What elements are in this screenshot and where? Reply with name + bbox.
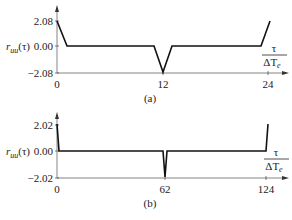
xtick-end-a: 24 bbox=[263, 78, 275, 90]
curve-b bbox=[57, 124, 268, 177]
ylabel-a: ruu(τ) bbox=[6, 40, 30, 55]
y-axis-arrow-icon bbox=[55, 112, 59, 119]
svg-text:ΔTe: ΔTe bbox=[265, 160, 283, 174]
ylabel-b: ruu(τ) bbox=[6, 145, 30, 160]
svg-text:τ: τ bbox=[274, 146, 279, 158]
xtick-0-b: 0 bbox=[54, 183, 60, 195]
curve-a bbox=[57, 21, 270, 72]
figure: 2.08 0.00 −2.08 ruu(τ) 0 12 24 τ ΔTe (a) bbox=[0, 0, 292, 220]
ytick-bot-b: −2.02 bbox=[28, 172, 53, 184]
svg-text:τ: τ bbox=[272, 42, 277, 54]
panel-b: 2.02 0.00 −2.02 ruu(τ) 0 62 124 τ ΔTe (b… bbox=[6, 112, 289, 210]
ytick-top-a: 2.08 bbox=[34, 15, 54, 27]
ytick-mid-a: 0.00 bbox=[34, 40, 54, 52]
xtick-end-b: 124 bbox=[258, 183, 275, 195]
y-axis-arrow-icon bbox=[55, 5, 59, 12]
xtick-0-a: 0 bbox=[54, 78, 60, 90]
ytick-mid-b: 0.00 bbox=[34, 145, 54, 157]
panel-a: 2.08 0.00 −2.08 ruu(τ) 0 12 24 τ ΔTe (a) bbox=[6, 5, 289, 105]
x-axis-arrow-icon bbox=[282, 176, 289, 180]
x-axis-arrow-icon bbox=[282, 71, 289, 75]
xtick-mid-b: 62 bbox=[160, 183, 171, 195]
svg-text:ΔTe: ΔTe bbox=[263, 56, 281, 70]
ytick-bot-a: −2.08 bbox=[28, 67, 54, 79]
xlabel-a: τ ΔTe bbox=[262, 42, 287, 70]
xlabel-b: τ ΔTe bbox=[264, 146, 289, 174]
xtick-mid-a: 12 bbox=[158, 78, 169, 90]
panel-label-b: (b) bbox=[144, 197, 157, 210]
ytick-top-b: 2.02 bbox=[34, 119, 53, 131]
panel-label-a: (a) bbox=[144, 92, 157, 105]
